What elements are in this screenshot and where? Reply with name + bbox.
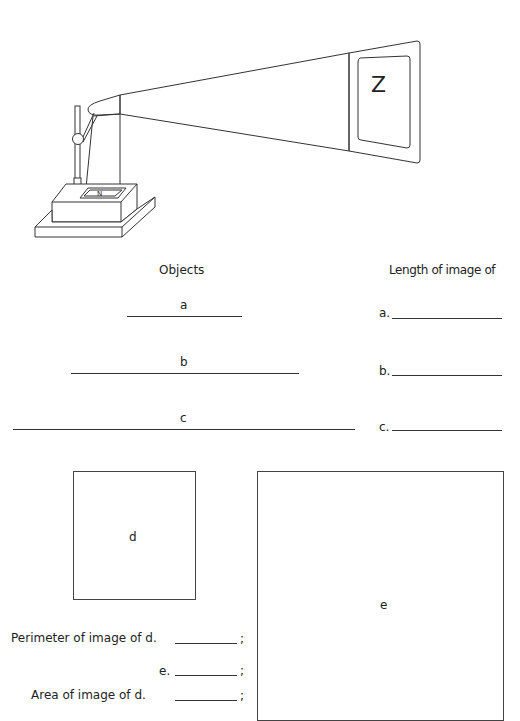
object-b-label: b: [180, 355, 188, 369]
question-perimeter-d: Perimeter of image of d.: [11, 631, 157, 645]
svg-text:N: N: [97, 190, 102, 198]
question-perimeter-e: e.: [159, 664, 170, 678]
objects-header: Objects: [159, 263, 204, 277]
answer-b-blank[interactable]: [392, 375, 502, 376]
question-perimeter-d-suffix: ;: [240, 632, 244, 646]
question-area-d-suffix: ;: [240, 689, 244, 703]
answer-a-label: a.: [379, 306, 390, 320]
perimeter-d-blank[interactable]: [175, 643, 237, 644]
projector-illustration: Z N: [0, 0, 520, 250]
square-e: e: [257, 471, 504, 721]
perimeter-e-blank[interactable]: [175, 675, 237, 676]
object-a-label: a: [180, 298, 187, 312]
question-area-d: Area of image of d.: [31, 688, 146, 702]
length-of-image-header: Length of image of: [389, 263, 495, 277]
answer-b-label: b.: [379, 364, 390, 378]
answer-c-blank[interactable]: [392, 430, 502, 431]
square-d-label: d: [129, 530, 137, 544]
screen-letter: Z: [371, 72, 386, 97]
square-e-label: e: [380, 598, 387, 612]
object-b-line: [71, 373, 299, 374]
area-d-blank[interactable]: [175, 700, 237, 701]
answer-c-label: c.: [379, 420, 389, 434]
object-a-line: [127, 316, 242, 317]
square-d: d: [73, 471, 196, 600]
question-perimeter-e-suffix: ;: [240, 664, 244, 678]
object-c-label: c: [180, 411, 187, 425]
answer-a-blank[interactable]: [392, 318, 502, 319]
object-c-line: [13, 429, 355, 430]
